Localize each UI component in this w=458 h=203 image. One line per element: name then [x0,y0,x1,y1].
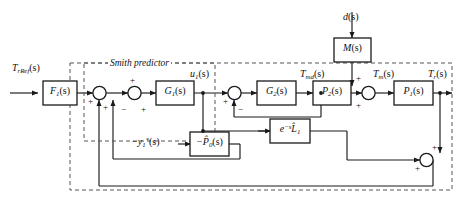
node-dot-delay-tap [201,129,205,133]
delay-block-label: e−sL̂1 [270,124,310,135]
summing-junction-3-shape [228,86,241,99]
filter-block-label: F1(s) [43,86,77,97]
summing-junction-1-shape [93,86,106,99]
sum4-sign-top: + [356,74,361,83]
sum2-sign-left: − [121,105,126,114]
motor-demand-label: Tmd(s) [300,69,324,80]
node-dot-output [438,91,442,95]
controller-block-label: G1(s) [156,86,194,97]
predictor-feedback-label: −y1*(s) [131,137,160,148]
sum1-sign-left: + [88,97,93,106]
sum2-sign-top: + [130,76,135,85]
summing-junction-4-shape [362,86,375,99]
output-label: Tr(s) [428,69,447,80]
sum1-sign-bottom: + [103,103,108,112]
disturbance-label: d(s) [343,12,359,22]
sum3-sign-bottom: − [238,105,243,114]
plant1-block-label: P1(s) [394,86,433,97]
control-signal-label: u1(s) [190,69,209,80]
summing-junction-2-shape [128,86,141,99]
node-dot-u1 [201,91,205,95]
sum4-sign-bottom: + [356,101,361,110]
reference-input-label: TrRef(s) [12,63,40,74]
block-diagram-canvas [0,0,458,203]
sum2-sign-right: + [141,105,146,114]
smith-predictor-label: Smith predictor [108,58,171,68]
disturbance-model-block-label: M(s) [334,43,371,53]
summing-junction-5-shape [420,153,433,166]
sum5-sign-top: + [432,143,437,152]
sum3-sign-left: + [223,97,228,106]
motor-torque-label: Tm(s) [373,69,394,80]
model-plant-block-label: −P̂0(s) [190,137,229,148]
plant2-block-label: P2(s) [313,86,351,97]
sum5-sign-left: + [415,164,420,173]
inner-controller-block-label: G2(s) [257,86,296,97]
